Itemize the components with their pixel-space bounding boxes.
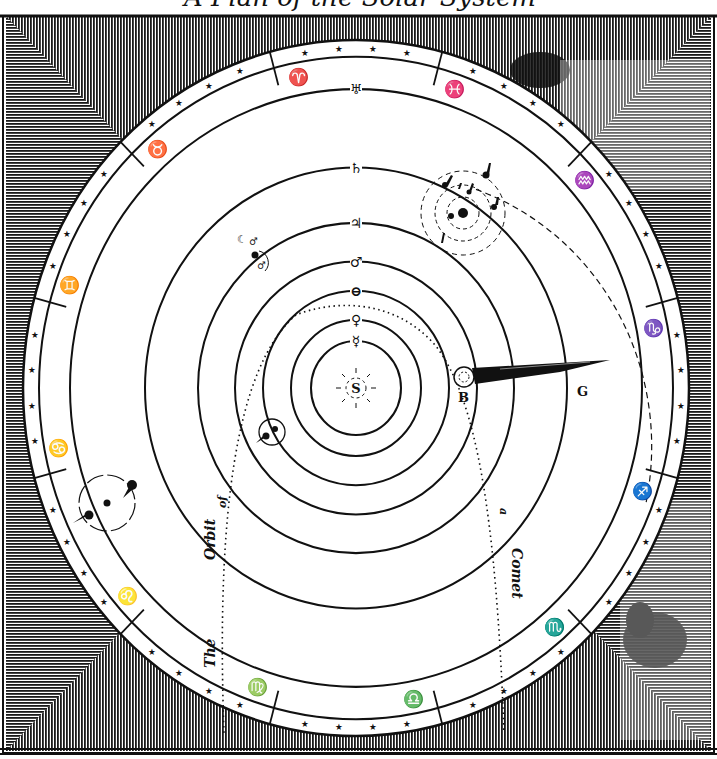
star-icon: ★ — [625, 567, 633, 578]
star-icon: ★ — [80, 567, 88, 578]
star-icon: ★ — [148, 646, 156, 657]
engraving-plate: ★★★★★★★★★★★★★★★★★★★★★★★★★★★★★★★★★★★★★★★★… — [0, 0, 717, 759]
plate-title: A Plan of the Solar System — [182, 0, 536, 12]
star-icon: ★ — [557, 646, 565, 657]
sun-label: S — [351, 381, 360, 396]
caption-the: The — [202, 638, 218, 668]
star-icon: ★ — [369, 43, 377, 54]
star-icon: ★ — [403, 717, 411, 728]
planet-symbol-mercury: ☿ — [352, 333, 361, 349]
star-icon: ★ — [80, 197, 88, 208]
star-icon: ★ — [529, 97, 537, 108]
zodiac-leo-icon: ♌ — [117, 586, 138, 606]
star-icon: ★ — [403, 46, 411, 57]
star-icon: ★ — [205, 685, 213, 696]
star-icon: ★ — [205, 79, 213, 90]
planet-symbol-venus: ♀ — [351, 312, 361, 328]
svg-text:♂: ♂ — [257, 260, 266, 271]
star-icon: ★ — [100, 596, 108, 607]
star-icon: ★ — [301, 46, 309, 57]
star-icon: ★ — [642, 536, 650, 547]
svg-text:☾: ☾ — [237, 233, 247, 246]
zodiac-taurus-icon: ♉ — [147, 139, 168, 159]
star-icon: ★ — [557, 118, 565, 129]
star-icon: ★ — [63, 536, 71, 547]
planet-symbol-jupiter: ♃ — [350, 215, 363, 231]
star-icon: ★ — [529, 667, 537, 678]
star-icon: ★ — [469, 65, 477, 76]
star-icon: ★ — [31, 329, 39, 340]
zodiac-gemini-icon: ♊ — [59, 275, 80, 295]
star-icon: ★ — [500, 79, 508, 90]
star-icon: ★ — [625, 197, 633, 208]
star-icon: ★ — [500, 685, 508, 696]
star-icon: ★ — [175, 97, 183, 108]
caption-comet: Comet — [509, 548, 525, 599]
zodiac-sagittarius-icon: ♐ — [632, 481, 653, 501]
planet-symbol-herschel: ♅ — [350, 81, 363, 97]
zodiac-scorpio-icon: ♏ — [544, 617, 565, 637]
star-icon: ★ — [656, 504, 664, 515]
title-strip: A Plan of the Solar System — [0, 0, 717, 14]
planet-symbol-mars: ♂ — [350, 254, 363, 270]
caption-a: a — [497, 508, 510, 515]
zodiac-aquarius-icon: ♒ — [574, 170, 595, 190]
planet-symbol-earth: ⊖ — [350, 283, 362, 299]
star-icon: ★ — [605, 168, 613, 179]
star-icon: ★ — [175, 667, 183, 678]
star-icon: ★ — [677, 364, 685, 375]
star-icon: ★ — [28, 400, 36, 411]
star-icon: ★ — [49, 260, 57, 271]
caption-orbit: Orbit — [202, 518, 218, 560]
star-icon: ★ — [335, 43, 343, 54]
star-icon: ★ — [656, 260, 664, 271]
star-icon: ★ — [236, 65, 244, 76]
star-icon: ★ — [673, 435, 681, 446]
zodiac-virgo-icon: ♍ — [247, 677, 268, 697]
star-icon: ★ — [49, 504, 57, 515]
star-icon: ★ — [301, 717, 309, 728]
star-icon: ★ — [63, 228, 71, 239]
zodiac-cancer-icon: ♋ — [48, 438, 69, 458]
zodiac-libra-icon: ♎ — [403, 689, 424, 709]
star-icon: ★ — [28, 364, 36, 375]
zodiac-pisces-icon: ♓ — [444, 79, 465, 99]
star-icon: ★ — [605, 596, 613, 607]
zodiac-aries-icon: ♈ — [288, 67, 309, 87]
star-icon: ★ — [148, 118, 156, 129]
zodiac-capricorn-icon: ♑ — [643, 318, 664, 338]
star-icon: ★ — [677, 400, 685, 411]
star-icon: ★ — [369, 721, 377, 732]
planet-symbol-saturn: ♄ — [350, 160, 363, 176]
star-icon: ★ — [673, 329, 681, 340]
solar-system-diagram: ★★★★★★★★★★★★★★★★★★★★★★★★★★★★★★★★★★★★★★★★… — [0, 0, 717, 759]
star-icon: ★ — [642, 228, 650, 239]
comet-label-g: G — [577, 384, 588, 399]
comet-label-b: B — [458, 390, 469, 405]
star-icon: ★ — [31, 435, 39, 446]
star-icon: ★ — [335, 721, 343, 732]
star-icon: ★ — [100, 168, 108, 179]
star-icon: ★ — [236, 699, 244, 710]
svg-text:♂: ♂ — [249, 236, 258, 247]
star-icon: ★ — [469, 699, 477, 710]
comet-head — [454, 367, 474, 387]
